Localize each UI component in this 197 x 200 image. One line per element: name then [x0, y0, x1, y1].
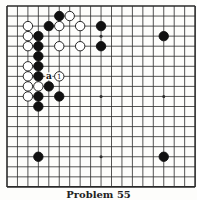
- black-stone: [34, 72, 43, 81]
- white-stone: [65, 11, 74, 20]
- black-stone: [96, 42, 105, 51]
- star-point: [100, 155, 103, 158]
- point-label-a: a: [46, 71, 52, 81]
- point-markers: a: [45, 71, 52, 81]
- black-stone: [159, 152, 168, 161]
- black-stone: [34, 52, 43, 61]
- white-stone: [23, 62, 32, 71]
- move-number-label: 1: [57, 73, 61, 81]
- white-stone: [55, 42, 64, 51]
- white-stone: 1: [55, 72, 64, 81]
- black-stone: [34, 62, 43, 71]
- go-board: 1 a: [0, 0, 197, 192]
- white-stone: [23, 21, 32, 30]
- white-stone: [23, 42, 32, 51]
- white-stone: [55, 21, 64, 30]
- black-stone: [34, 92, 43, 101]
- white-stone: [75, 21, 84, 30]
- black-stone: [34, 152, 43, 161]
- black-stone: [159, 31, 168, 40]
- black-stone: [44, 21, 53, 30]
- white-stone: [23, 82, 32, 91]
- problem-caption: Problem 55: [0, 189, 197, 200]
- black-stone: [44, 82, 53, 91]
- white-stone: [34, 82, 43, 91]
- star-point: [162, 95, 165, 98]
- white-stone: [23, 31, 32, 40]
- black-stone: [55, 11, 64, 20]
- black-stone: [34, 42, 43, 51]
- white-stone: [23, 92, 32, 101]
- black-stone: [34, 102, 43, 111]
- star-point: [100, 35, 103, 38]
- star-point: [100, 95, 103, 98]
- black-stone: [96, 21, 105, 30]
- black-stone: [55, 92, 64, 101]
- white-stone: [23, 72, 32, 81]
- white-stone: [75, 42, 84, 51]
- black-stone: [34, 31, 43, 40]
